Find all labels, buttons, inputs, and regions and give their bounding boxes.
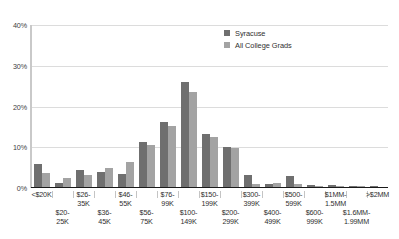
bar-syracuse[interactable] <box>202 134 210 188</box>
bar-syracuse[interactable] <box>160 122 168 188</box>
bar-group <box>367 25 388 188</box>
x-axis-tick-label: $76- 99K <box>145 191 191 208</box>
legend-swatch-icon <box>224 42 230 48</box>
x-axis-tick-label: $600- 999K <box>292 209 338 226</box>
x-axis-line <box>31 187 388 189</box>
bar-group <box>157 25 178 188</box>
bar-group <box>31 25 52 188</box>
x-axis-tick-label: $1MM- 1.5MM <box>313 191 359 208</box>
bar-group <box>346 25 367 188</box>
bar-syracuse[interactable] <box>139 142 147 188</box>
bar-group <box>115 25 136 188</box>
bar-all-college-grads[interactable] <box>189 92 197 188</box>
x-axis-tick-label: $500- 599K <box>271 191 317 208</box>
bar-group <box>178 25 199 188</box>
bar-groups <box>31 25 388 188</box>
bar-group <box>94 25 115 188</box>
x-axis-tick-label: $100- 149K <box>166 209 212 226</box>
y-axis-tick-label: 40% <box>0 21 27 30</box>
bar-all-college-grads[interactable] <box>105 168 113 188</box>
legend-label: Syracuse <box>235 29 265 38</box>
x-axis-tick-label: $400- 499K <box>250 209 296 226</box>
y-axis-tick-label: 30% <box>0 61 27 70</box>
x-axis-tick-label: $150- 199K <box>187 191 233 208</box>
y-axis-tick-label: 10% <box>0 143 27 152</box>
x-axis-tick-label: $26- 35K <box>61 191 107 208</box>
bar-group <box>304 25 325 188</box>
x-axis-tick-label: $56- 75K <box>124 209 170 226</box>
bar-group <box>136 25 157 188</box>
x-axis-tick-label: $36- 45K <box>82 209 128 226</box>
y-axis-tick-label: 20% <box>0 102 27 111</box>
bar-group <box>199 25 220 188</box>
x-axis-tick-label: $20- 25K <box>40 209 86 226</box>
x-axis-tick-label: $46- 55K <box>103 191 149 208</box>
x-axis-tick-label: $300- 399K <box>229 191 275 208</box>
bar-group <box>73 25 94 188</box>
x-axis-tick-label: >$2MM <box>355 191 399 200</box>
bar-syracuse[interactable] <box>181 82 189 188</box>
bar-syracuse[interactable] <box>76 170 84 188</box>
bar-all-college-grads[interactable] <box>210 137 218 188</box>
legend-item-syracuse[interactable]: Syracuse <box>224 28 292 38</box>
chart-legend: Syracuse All College Grads <box>224 28 292 52</box>
bar-syracuse[interactable] <box>223 147 231 188</box>
plot-area <box>31 25 388 188</box>
legend-label: All College Grads <box>235 41 292 50</box>
bar-all-college-grads[interactable] <box>168 126 176 188</box>
x-axis-tick-labels: <$20K$20- 25K$26- 35K$36- 45K$46- 55K$56… <box>31 190 388 239</box>
x-axis-tick-label: <$20K <box>19 191 65 200</box>
legend-item-all-college-grads[interactable]: All College Grads <box>224 40 292 50</box>
bar-group <box>52 25 73 188</box>
bar-all-college-grads[interactable] <box>147 145 155 188</box>
legend-swatch-icon <box>224 30 230 36</box>
bar-all-college-grads[interactable] <box>126 162 134 188</box>
bar-all-college-grads[interactable] <box>231 148 239 188</box>
x-axis-tick-label: $200- 299K <box>208 209 254 226</box>
x-axis-tick-label: $1.6MM- 1.99MM <box>334 209 380 226</box>
bar-group <box>325 25 346 188</box>
bar-syracuse[interactable] <box>34 164 42 188</box>
income-distribution-bar-chart: 0%10%20%30%40% <$20K$20- 25K$26- 35K$36-… <box>0 0 399 239</box>
